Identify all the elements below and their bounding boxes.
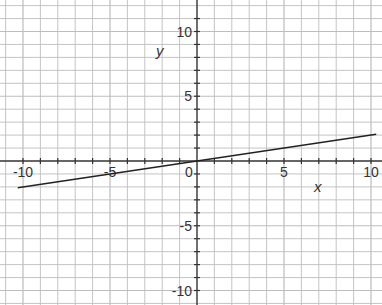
coordinate-plane: -10-50510-10-5510 x y bbox=[0, 0, 382, 305]
axes bbox=[0, 0, 382, 305]
x-tick-label: -10 bbox=[13, 164, 33, 180]
x-tick-label: 10 bbox=[363, 164, 379, 180]
y-tick-label: 5 bbox=[184, 88, 192, 104]
y-tick-label: -10 bbox=[172, 283, 192, 299]
grid-lines bbox=[0, 0, 382, 305]
y-tick-label: 10 bbox=[176, 24, 192, 40]
y-tick-label: -5 bbox=[180, 218, 193, 234]
x-axis-label: x bbox=[313, 178, 322, 195]
x-tick-label: 5 bbox=[280, 164, 288, 180]
x-tick-label: -5 bbox=[104, 164, 117, 180]
x-tick-label: 0 bbox=[185, 164, 193, 180]
